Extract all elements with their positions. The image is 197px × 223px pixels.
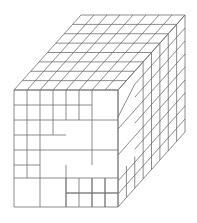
- subdivided-cube-figure: [0, 0, 197, 223]
- cube-front-face: [14, 90, 118, 207]
- cube-diagram: [0, 0, 197, 223]
- grid-line: [118, 84, 135, 117]
- cube-top-face: [14, 15, 185, 90]
- grid-line: [118, 110, 135, 129]
- grid-line: [118, 136, 135, 155]
- cube-right-face: [118, 15, 185, 207]
